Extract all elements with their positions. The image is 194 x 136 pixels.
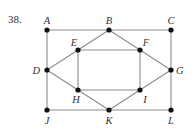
edge-b-e — [78, 30, 109, 50]
edge-g-i — [140, 70, 171, 90]
vertex-e — [75, 47, 80, 52]
vertex-a — [44, 27, 49, 32]
vertex-label-c: C — [167, 15, 175, 26]
vertex-d — [44, 67, 49, 72]
vertex-label-h: H — [71, 94, 81, 105]
vertex-label-l: L — [167, 115, 174, 126]
vertex-label-b: B — [106, 15, 113, 26]
vertex-label-d: D — [31, 65, 40, 76]
vertex-label-j: J — [45, 115, 51, 126]
graph-edges — [47, 30, 171, 110]
vertex-f — [137, 47, 142, 52]
vertex-label-f: F — [142, 37, 150, 48]
edge-h-k — [78, 90, 109, 110]
graph-diagram: ABCEFDGHIJKL — [0, 0, 194, 136]
edge-d-h — [47, 70, 78, 90]
vertex-l — [168, 107, 173, 112]
vertex-h — [75, 87, 80, 92]
vertex-k — [106, 107, 111, 112]
edge-i-k — [109, 90, 140, 110]
edge-b-f — [109, 30, 140, 50]
graph-nodes — [44, 27, 173, 112]
vertex-label-a: A — [43, 15, 51, 26]
vertex-g — [168, 67, 173, 72]
vertex-j — [44, 107, 49, 112]
edge-g-f — [140, 50, 171, 70]
vertex-i — [137, 87, 142, 92]
vertex-label-g: G — [176, 65, 184, 76]
edge-d-e — [47, 50, 78, 70]
vertex-c — [168, 27, 173, 32]
graph-figure: 38. ABCEFDGHIJKL — [0, 0, 194, 136]
vertex-b — [106, 27, 111, 32]
vertex-label-i: I — [142, 94, 147, 105]
vertex-label-e: E — [70, 37, 78, 48]
vertex-label-k: K — [104, 115, 113, 126]
